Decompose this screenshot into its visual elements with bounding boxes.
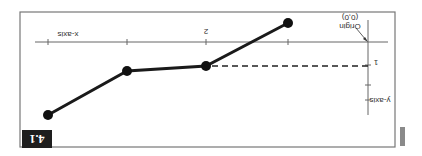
x-axis-label: x-axis xyxy=(58,30,79,39)
side-bar xyxy=(400,127,405,146)
origin-coords-label: (0,0) xyxy=(341,13,358,22)
origin-label: Origin xyxy=(339,22,360,31)
data-point xyxy=(122,66,132,76)
diagram-figure: 4.1 x xyxy=(0,0,422,156)
data-point xyxy=(283,18,293,28)
data-point xyxy=(43,110,53,120)
data-line xyxy=(48,23,288,115)
figure-badge-label: 4.1 xyxy=(30,132,45,146)
x-marker-label: 2 xyxy=(203,27,208,36)
data-point-highlighted xyxy=(201,61,211,71)
y-axis-label: y-axis xyxy=(370,96,391,105)
y-marker-label: 1 xyxy=(373,58,378,67)
